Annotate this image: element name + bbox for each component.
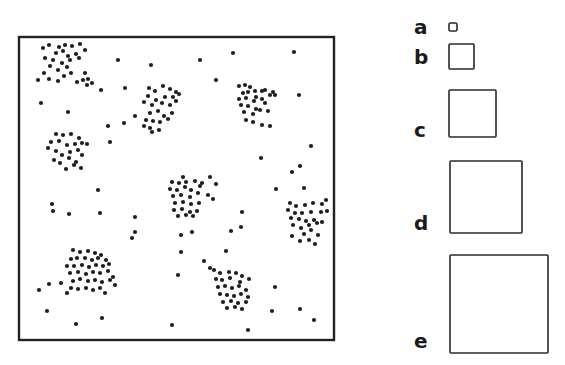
- cluster-point: [237, 284, 241, 288]
- cluster-point: [189, 202, 193, 206]
- scattered-point: [74, 322, 78, 326]
- cluster-point: [48, 64, 52, 68]
- scattered-point: [298, 164, 302, 168]
- cluster-point: [78, 277, 82, 281]
- cluster-point: [80, 263, 84, 267]
- cluster-point: [90, 258, 94, 262]
- scattered-point: [50, 202, 54, 206]
- cluster-point: [151, 119, 155, 123]
- cluster-point: [293, 211, 297, 215]
- cluster-point: [87, 265, 91, 269]
- cluster-point: [324, 198, 328, 202]
- cluster-point: [188, 210, 192, 214]
- cluster-point: [62, 74, 66, 78]
- cluster-point: [68, 271, 72, 275]
- cluster-point: [157, 128, 161, 132]
- scattered-point: [312, 318, 316, 322]
- cluster-point: [268, 124, 272, 128]
- cluster-point: [307, 238, 311, 242]
- cluster-point: [312, 218, 316, 222]
- cluster-point: [148, 126, 152, 130]
- cluster-point: [58, 161, 62, 165]
- cluster-point: [144, 118, 148, 122]
- cluster-point: [247, 277, 251, 281]
- cluster-point: [236, 301, 240, 305]
- scattered-point: [98, 211, 102, 215]
- cluster-point: [161, 84, 165, 88]
- cluster-point: [319, 210, 323, 214]
- scattered-point: [190, 230, 194, 234]
- cluster-point: [76, 270, 80, 274]
- cluster-point: [150, 130, 154, 134]
- scattered-point: [67, 212, 71, 216]
- cluster-point: [230, 286, 234, 290]
- cluster-point: [80, 153, 84, 157]
- cluster-point: [263, 101, 267, 105]
- scattered-point: [214, 78, 218, 82]
- cluster-point: [147, 86, 151, 90]
- scattered-point: [309, 144, 313, 148]
- cluster-point: [254, 95, 258, 99]
- cluster-point: [307, 223, 311, 227]
- cluster-point: [246, 295, 250, 299]
- scattered-point: [302, 186, 306, 190]
- scattered-point: [246, 328, 250, 332]
- cluster-point: [173, 201, 177, 205]
- cluster-point: [70, 44, 74, 48]
- cluster-point: [299, 226, 303, 230]
- cluster-point: [260, 123, 264, 127]
- cluster-point: [268, 93, 272, 97]
- cluster-point: [113, 283, 117, 287]
- cluster-point: [78, 42, 82, 46]
- quadrat-square-e: [450, 255, 548, 353]
- cluster-point: [67, 156, 71, 160]
- cluster-point: [238, 280, 242, 284]
- scattered-point: [133, 114, 137, 118]
- quadrat-square-d: [450, 161, 522, 233]
- scattered-point: [100, 316, 104, 320]
- cluster-point: [214, 182, 218, 186]
- cluster-point: [100, 280, 104, 284]
- cluster-point: [197, 201, 201, 205]
- quadrat-legend-squares: [449, 23, 548, 353]
- cluster-point: [54, 132, 58, 136]
- cluster-point: [239, 103, 243, 107]
- cluster-point: [68, 150, 72, 154]
- cluster-point: [183, 185, 187, 189]
- scattered-point: [259, 156, 263, 160]
- cluster-point: [237, 84, 241, 88]
- cluster-point: [244, 96, 248, 100]
- cluster-point: [69, 286, 73, 290]
- cluster-point: [303, 203, 307, 207]
- cluster-point: [86, 249, 90, 253]
- cluster-point: [273, 93, 277, 97]
- cluster-point: [76, 148, 80, 152]
- cluster-point: [171, 95, 175, 99]
- cluster-point: [221, 300, 225, 304]
- scattered-point: [122, 121, 126, 125]
- cluster-point: [99, 253, 103, 257]
- cluster-point: [311, 201, 315, 205]
- cluster-point: [223, 284, 227, 288]
- cluster-point: [177, 92, 181, 96]
- cluster-point: [168, 103, 172, 107]
- cluster-point: [83, 256, 87, 260]
- scattered-point: [298, 307, 302, 311]
- cluster-point: [57, 139, 61, 143]
- cluster-point: [214, 277, 218, 281]
- cluster-point: [166, 117, 170, 121]
- cluster-point: [93, 251, 97, 255]
- cluster-point: [234, 271, 238, 275]
- cluster-point: [59, 281, 63, 285]
- cluster-point: [156, 109, 160, 113]
- cluster-point: [66, 54, 70, 58]
- cluster-point: [254, 107, 258, 111]
- cluster-point: [107, 262, 111, 266]
- cluster-point: [253, 89, 257, 93]
- cluster-point: [240, 274, 244, 278]
- cluster-point: [43, 56, 47, 60]
- scattered-point: [179, 233, 183, 237]
- cluster-point: [218, 292, 222, 296]
- cluster-point: [288, 201, 292, 205]
- cluster-point: [71, 279, 75, 283]
